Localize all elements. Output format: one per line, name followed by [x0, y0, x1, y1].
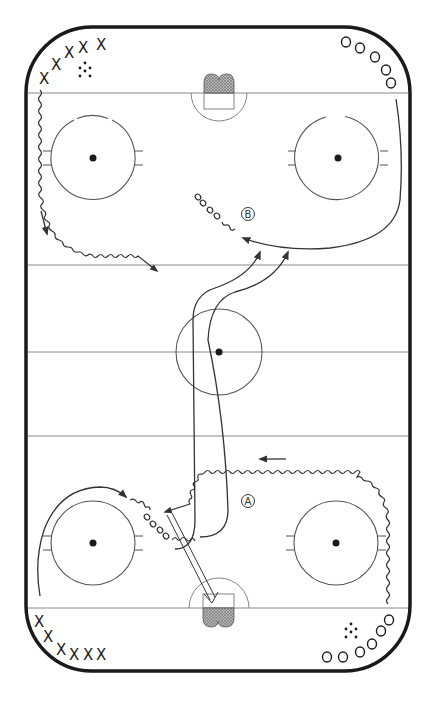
- hockey-rink-diagram: X X X X X X X X X X X: [0, 0, 436, 716]
- puck-pile-bottom-right: [345, 623, 358, 639]
- svg-text:X: X: [83, 646, 93, 664]
- svg-text:B: B: [245, 209, 252, 220]
- faceoff-circle-bottom-right: [286, 501, 386, 585]
- skate-with-puck-path-bottom-right: [165, 471, 390, 605]
- skate-path-top-right: [243, 99, 401, 249]
- skate-with-puck-path-top-left: [39, 90, 158, 271]
- bottom-goal: [189, 578, 249, 627]
- svg-text:X: X: [39, 70, 49, 88]
- svg-text:X: X: [56, 641, 66, 659]
- puck-pile-top-left: [79, 62, 92, 78]
- faceoff-circle-top-left: [43, 116, 143, 200]
- shot-path: [167, 513, 218, 603]
- center-faceoff-dot: [216, 349, 223, 356]
- top-goal: [191, 74, 247, 121]
- svg-text:A: A: [245, 496, 252, 507]
- players-o-bottom-right: [323, 615, 394, 662]
- players-x-bottom-left: X X X X X X: [34, 613, 106, 664]
- label-a: A: [242, 495, 255, 508]
- svg-text:X: X: [78, 39, 88, 57]
- svg-text:X: X: [43, 628, 53, 646]
- svg-text:X: X: [51, 56, 61, 74]
- svg-text:X: X: [64, 44, 74, 62]
- faceoff-circle-top-right: [288, 117, 388, 200]
- svg-text:X: X: [96, 646, 106, 664]
- svg-text:X: X: [96, 36, 106, 54]
- faceoff-circle-bottom-left: [43, 501, 143, 585]
- label-b: B: [242, 208, 255, 221]
- svg-text:X: X: [69, 646, 79, 664]
- pass-dashed-top: [194, 193, 235, 230]
